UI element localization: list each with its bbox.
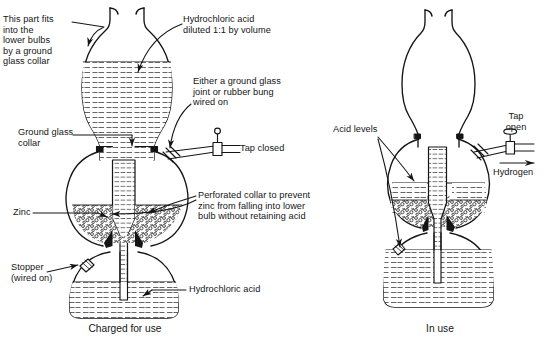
label-zinc: Zinc [13, 207, 31, 218]
caption-in-use: In use [400, 323, 480, 334]
label-tap-open: Tap open [499, 111, 533, 132]
label-hydrochloric-acid-diluted: Hydrochloric acid diluted 1:1 by volume [183, 14, 271, 35]
label-hydrochloric-acid: Hydrochloric acid [189, 284, 260, 295]
label-tap-closed: Tap closed [240, 143, 284, 154]
stopper-left [80, 259, 94, 272]
label-acid-levels: Acid levels [333, 124, 377, 135]
apparatus-diagram [0, 0, 548, 344]
tap-closed-icon [163, 128, 240, 162]
figure-canvas: This part fits into the lower bulbs by a… [0, 0, 548, 344]
right-apparatus [383, 10, 534, 307]
label-hydrogen: Hydrogen [493, 167, 533, 178]
label-perforated-collar: Perforated collar to prevent zinc from f… [198, 190, 310, 222]
left-apparatus [66, 8, 240, 318]
caption-charged-for-use: Charged for use [65, 323, 185, 334]
label-stopper: Stopper (wired on) [11, 262, 52, 283]
label-this-part-fits: This part fits into the lower bulbs by a… [3, 14, 54, 67]
label-either-ground-glass-joint: Either a ground glass joint or rubber bu… [193, 76, 281, 108]
label-ground-glass-collar: Ground glass collar [18, 127, 73, 148]
